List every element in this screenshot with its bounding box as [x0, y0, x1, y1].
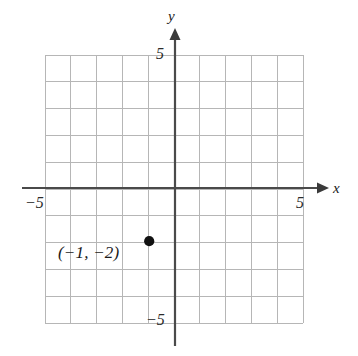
x-axis-tick-negative-5: −5	[25, 194, 44, 212]
x-axis-arrowhead	[317, 183, 329, 194]
x-axis-label: x	[333, 180, 340, 197]
data-point-marker	[144, 236, 154, 246]
coordinate-plane-figure: y x 5 5 −5 −5 (−1, −2)	[0, 0, 358, 356]
y-axis-tick-positive-5: 5	[156, 45, 164, 63]
y-axis-tick-negative-5: −5	[146, 311, 165, 329]
y-axis-arrowhead	[170, 28, 181, 40]
coordinate-plane-canvas	[0, 0, 358, 356]
y-axis-label: y	[168, 8, 175, 25]
data-point-coordinate-label: (−1, −2)	[58, 243, 119, 263]
x-axis-tick-positive-5: 5	[296, 194, 304, 212]
